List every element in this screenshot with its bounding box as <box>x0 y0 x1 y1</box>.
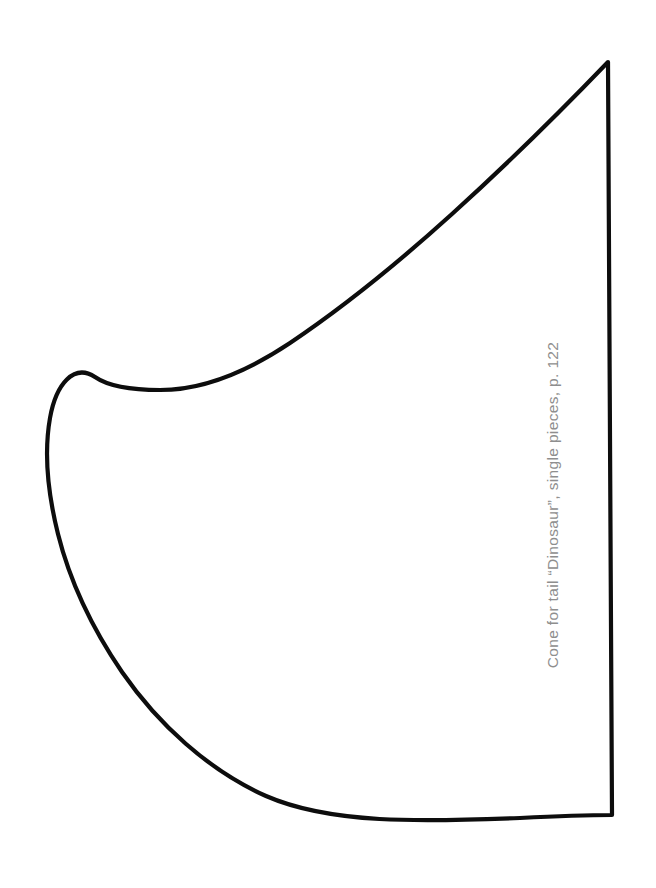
pattern-page: Cone for tail “Dinosaur”, single pieces,… <box>0 0 656 888</box>
cone-tail-pattern-outline <box>47 62 612 820</box>
pattern-drawing-canvas <box>0 0 656 888</box>
